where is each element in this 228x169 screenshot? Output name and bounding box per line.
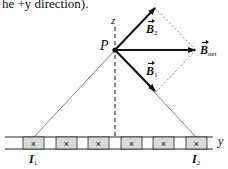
parallelogram-dashed-upper bbox=[155, 8, 196, 50]
current-I1-label: I1 bbox=[29, 152, 37, 167]
vector-Bnet-label: Bnet bbox=[200, 43, 217, 58]
svg-text:×: × bbox=[194, 139, 199, 149]
point-P-dot bbox=[112, 47, 117, 52]
B2-base: B bbox=[146, 22, 154, 37]
vector-B1-label: B1 bbox=[146, 64, 158, 79]
I2-subscript: 2 bbox=[197, 159, 201, 167]
current-I2-label: I2 bbox=[192, 152, 200, 167]
svg-text:×: × bbox=[64, 139, 69, 149]
wire-1: × bbox=[23, 137, 44, 149]
line-to-I1 bbox=[34, 50, 115, 137]
wire-4: × bbox=[121, 137, 142, 149]
point-P-label: P bbox=[100, 38, 109, 54]
B1-subscript: 1 bbox=[154, 71, 158, 79]
vector-B2-label: B2 bbox=[146, 22, 158, 37]
svg-text:×: × bbox=[96, 139, 101, 149]
parallelogram-dashed-lower bbox=[156, 50, 196, 92]
wire-5: × bbox=[153, 137, 174, 149]
wire-3: × bbox=[88, 137, 109, 149]
y-axis-label: y bbox=[218, 134, 223, 149]
I1-subscript: 1 bbox=[34, 159, 38, 167]
wire-2: × bbox=[56, 137, 77, 149]
svg-text:×: × bbox=[161, 139, 166, 149]
svg-text:×: × bbox=[129, 139, 134, 149]
current-wires: × × × × × × bbox=[23, 137, 207, 149]
Bnet-subscript: net bbox=[208, 50, 217, 58]
wire-6: × bbox=[186, 137, 207, 149]
B1-base: B bbox=[146, 64, 154, 79]
z-axis-label: z bbox=[111, 14, 115, 26]
B2-subscript: 2 bbox=[154, 29, 158, 37]
svg-text:×: × bbox=[31, 139, 36, 149]
Bnet-base: B bbox=[200, 43, 208, 58]
